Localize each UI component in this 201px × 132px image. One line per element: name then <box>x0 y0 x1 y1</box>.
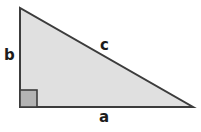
right-angle-square-icon <box>20 90 37 107</box>
right-triangle-diagram: b c a <box>0 0 201 132</box>
side-label-c: c <box>100 38 109 53</box>
side-label-a: a <box>99 110 109 125</box>
side-label-b: b <box>4 48 15 63</box>
